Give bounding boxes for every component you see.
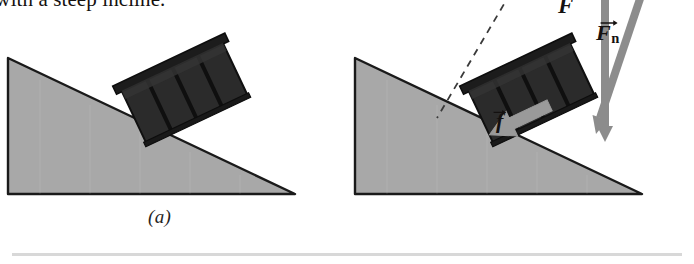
physics-figure: ad with a steep incline. <box>0 0 694 264</box>
panel-b-illustration <box>347 0 694 240</box>
applied-force-symbol: F <box>558 0 573 17</box>
panel-label-a: (a) <box>148 206 171 228</box>
friction-force-symbol: f <box>496 110 503 132</box>
panel-b: (b) <box>347 0 694 240</box>
bottom-divider <box>12 253 682 256</box>
friction-force-label: f <box>496 110 503 132</box>
normal-force-label: Fn <box>596 22 619 45</box>
normal-force-subscript: n <box>611 30 619 46</box>
normal-force-symbol: F <box>596 22 611 44</box>
panel-a: (a) <box>0 0 347 240</box>
applied-force-label: F <box>558 0 573 17</box>
panel-a-illustration <box>0 0 347 240</box>
